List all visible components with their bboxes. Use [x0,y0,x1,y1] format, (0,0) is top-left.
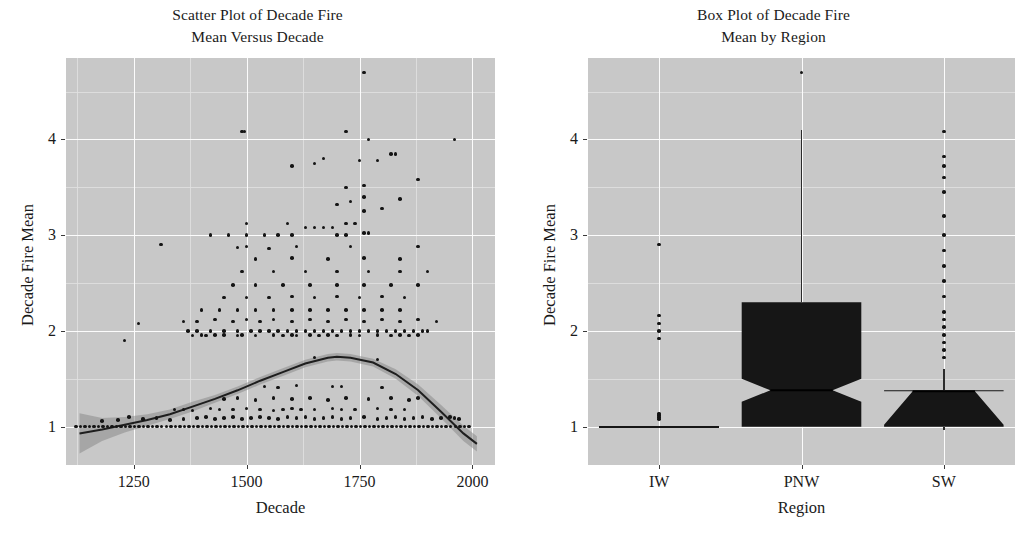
scatter-point [240,417,244,421]
scatter-point [326,257,330,261]
scatter-point [213,417,217,421]
box-outlier-point [942,164,946,168]
scatter-point [304,329,308,333]
x-tick-label: 1750 [330,473,390,491]
scatter-point [290,333,294,337]
y-tick-mark [61,139,65,140]
scatter-point [267,296,271,300]
boxplot-y-axis-title: Decade Fire Mean [540,145,560,385]
scatter-x-axis-title: Decade [66,498,495,518]
scatter-point [186,329,190,333]
scatter-point [335,270,339,274]
scatter-point [398,333,402,337]
x-tick-label: 1500 [217,473,277,491]
scatter-point [182,417,186,421]
scatter-point [362,71,366,75]
scatter-point [416,333,420,337]
boxplot-title: Box Plot of Decade Fire Mean by Region [516,4,1031,48]
scatter-point [204,415,208,419]
scatter-point [376,333,380,337]
scatter-point [258,415,262,419]
y-tick-mark [583,139,587,140]
x-tick-mark [134,465,135,469]
figure-root: Scatter Plot of Decade Fire Mean Versus … [0,0,1031,533]
scatter-point [362,195,366,199]
scatter-point [249,416,253,420]
scatter-point [236,329,240,333]
scatter-point [385,329,389,333]
y-tick-mark [583,427,587,428]
boxplot-panel: Box Plot of Decade Fire Mean by Region 1… [516,0,1031,533]
box-outlier-point [942,310,946,314]
scatter-point [116,418,120,422]
scatter-point [222,416,226,420]
scatter-point [349,333,353,337]
box-outlier-point [942,279,946,283]
scatter-point [137,322,141,326]
scatter-point [407,398,411,402]
scatter-point [290,256,294,260]
box-outlier-point [942,249,946,253]
scatter-point [344,318,348,322]
scatter-point [340,417,344,421]
scatter-point [155,416,159,420]
x-tick-mark [472,465,473,469]
scatter-plot-title: Scatter Plot of Decade Fire Mean Versus … [0,4,515,48]
box-outlier-point [942,190,946,194]
scatter-point [367,329,371,333]
scatter-point [299,408,303,412]
scatter-point [344,396,348,400]
scatter-point [258,329,262,333]
scatter-point [380,207,384,211]
scatter-point [295,416,299,420]
y-tick-mark [583,235,587,236]
scatter-point [295,329,299,333]
scatter-point [195,320,199,324]
scatter-title-line2: Mean Versus Decade [0,26,515,48]
scatter-point [398,197,402,201]
scatter-point [276,329,280,333]
scatter-point [453,416,457,420]
scatter-point [353,408,357,412]
box-outlier-point [942,325,946,329]
scatter-point [308,283,312,287]
scatter-point [267,329,271,333]
box-outlier-point [942,348,946,352]
y-tick-mark [61,235,65,236]
scatter-y-axis-title: Decade Fire Mean [18,145,38,385]
scatter-point [389,396,393,400]
y-tick-mark [61,427,65,428]
scatter-point [286,329,290,333]
scatter-point [326,398,330,402]
box-outlier-point [942,233,946,237]
scatter-point [331,415,335,419]
scatter-point [335,233,339,237]
y-tick-label: 1 [28,418,56,436]
scatter-point [430,417,434,421]
scatter-point [267,416,271,420]
scatter-point [362,209,366,213]
scatter-point [222,397,226,401]
box-outlier-point [942,318,946,322]
x-tick-label: 2000 [442,473,502,491]
scatter-point [326,333,330,337]
boxplot-plot-area [588,58,1015,465]
box-outlier-point [942,333,946,337]
scatter-point [362,320,366,324]
scatter-point [362,231,366,235]
scatter-point [416,318,420,322]
x-tick-label: IW [629,473,689,491]
scatter-point [380,386,384,390]
box-outlier-point [942,341,946,345]
x-tick-label: PNW [772,473,832,491]
box-outlier-point [942,264,946,268]
scatter-point [290,320,294,324]
scatter-point [326,320,330,324]
scatter-point [100,419,104,423]
scatter-point [322,329,326,333]
x-tick-mark [360,465,361,469]
scatter-point [276,233,280,237]
scatter-point [236,308,240,312]
scatter-point [344,233,348,237]
scatter-point [457,417,461,421]
